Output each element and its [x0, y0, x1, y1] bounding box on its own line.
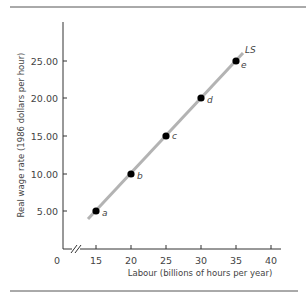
data-point	[127, 170, 134, 177]
x-tick-label: 30	[195, 255, 207, 266]
x-tick-label: 0	[54, 255, 60, 266]
y-tick-label: 20.00	[31, 93, 58, 104]
y-axis-label: Real wage rate (1986 dollars per hour)	[16, 53, 26, 218]
x-ticks: 0 15 20 25 30 35 40	[54, 245, 277, 266]
x-tick-label: 40	[265, 255, 277, 266]
x-axis-label: Labour (billions of hours per year)	[128, 268, 273, 278]
point-label: d	[207, 95, 213, 105]
x-tick-label: 35	[230, 255, 242, 266]
data-point	[197, 94, 204, 101]
x-tick-label: 20	[125, 255, 137, 266]
point-label: b	[137, 171, 143, 181]
y-ticks: 5.00 10.00 15.00 20.00 25.00	[31, 56, 67, 217]
y-tick-label: 10.00	[31, 169, 58, 180]
data-points: a b c d e	[92, 57, 247, 218]
y-tick-label: 5.00	[37, 206, 58, 217]
data-point	[92, 207, 99, 214]
y-tick-label: 15.00	[31, 131, 58, 142]
point-label: c	[172, 131, 177, 141]
x-tick-label: 25	[160, 255, 172, 266]
point-label: e	[241, 60, 247, 70]
curve-label: LS	[245, 45, 256, 55]
point-label: a	[102, 208, 108, 218]
chart: 5.00 10.00 15.00 20.00 25.00 0 15 20 25 …	[0, 0, 306, 298]
data-point	[162, 132, 169, 139]
y-tick-label: 25.00	[31, 56, 58, 67]
data-point	[232, 57, 239, 64]
x-tick-label: 15	[90, 255, 102, 266]
axis-break-icon	[71, 244, 81, 254]
